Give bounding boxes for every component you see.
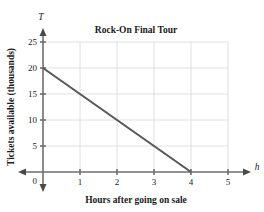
x-tick-label-5: 5 — [226, 177, 231, 187]
y-tick-label-20: 20 — [28, 63, 38, 73]
x-tick-label-1: 1 — [78, 177, 83, 187]
y-tick-label-15: 15 — [28, 89, 38, 99]
y-axis-variable-label: T — [38, 12, 44, 22]
y-tick-label-25: 25 — [28, 37, 38, 47]
y-tick-label-0: 0 — [33, 176, 38, 186]
y-axis-title: Tickets available (thousands) — [6, 48, 17, 166]
x-axis-variable-label: h — [255, 162, 260, 172]
chart-container: Rock-On Final Tour 25 20 15 10 5 0 1 2 3… — [0, 0, 264, 212]
x-tick-label-2: 2 — [115, 177, 120, 187]
y-tick-label-5: 5 — [33, 141, 38, 151]
x-axis-title: Hours after going on sale — [85, 195, 187, 205]
chart-title: Rock-On Final Tour — [95, 25, 178, 35]
y-tick-label-10: 10 — [28, 115, 38, 125]
x-tick-label-3: 3 — [152, 177, 157, 187]
x-tick-label-4: 4 — [189, 177, 194, 187]
ticket-sales-line-chart: Rock-On Final Tour 25 20 15 10 5 0 1 2 3… — [0, 0, 264, 212]
